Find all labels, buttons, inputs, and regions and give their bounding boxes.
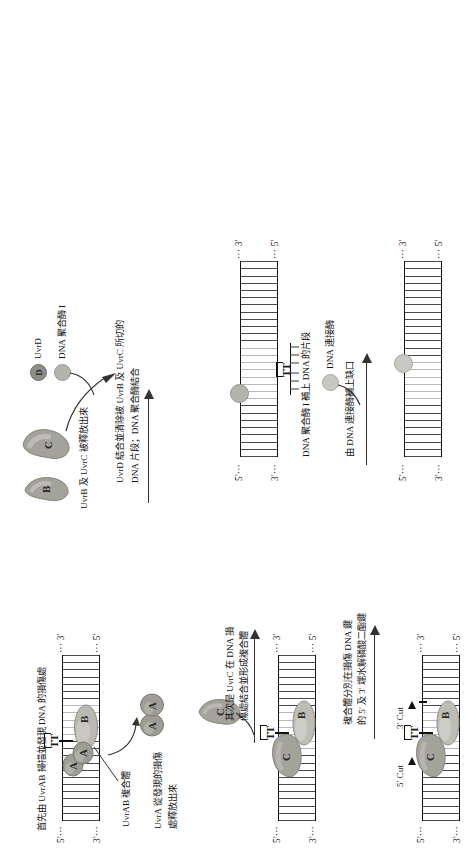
rung bbox=[423, 662, 459, 663]
rung bbox=[405, 384, 441, 385]
rung bbox=[63, 662, 99, 663]
rung bbox=[241, 434, 277, 435]
pol-hook-curve bbox=[68, 367, 108, 397]
label-5prime-right: ··· 5' bbox=[308, 633, 318, 653]
rung bbox=[241, 442, 277, 443]
rung bbox=[405, 427, 441, 428]
rung bbox=[241, 377, 277, 378]
transition-3-4: B C UvrB 及 UvrC 被釋放出來 D UvrD DNA 聚合酶 I bbox=[22, 269, 222, 509]
rung bbox=[241, 312, 277, 313]
rung bbox=[405, 261, 441, 262]
panel-1-release-line2: 處釋放出來 bbox=[167, 784, 180, 829]
label-3prime-left: 3'··· bbox=[92, 826, 102, 843]
rung bbox=[279, 655, 315, 656]
rung bbox=[63, 791, 99, 792]
protein-label-c-released: C bbox=[42, 441, 54, 449]
rung bbox=[63, 798, 99, 799]
rung bbox=[405, 434, 441, 435]
rung bbox=[405, 456, 441, 457]
label-5prime-left: 5'··· bbox=[56, 826, 66, 843]
dna-strand-bottom bbox=[441, 261, 442, 457]
rung bbox=[279, 662, 315, 663]
rung bbox=[241, 420, 277, 421]
legend-label-uvrd: UvrD bbox=[32, 338, 45, 359]
rung bbox=[241, 355, 277, 356]
rung bbox=[405, 377, 441, 378]
protein-label-a-rel-a: A bbox=[146, 722, 158, 730]
rung bbox=[405, 391, 441, 392]
panel-5-repaired-dna: 5'··· 3'··· ··· 3' ··· 5' bbox=[378, 241, 465, 481]
process-arrow-line-4 bbox=[366, 361, 367, 465]
label-5prime-right: ··· 5' bbox=[434, 239, 444, 259]
rung bbox=[241, 261, 277, 262]
label-3prime-right: ··· 3' bbox=[398, 239, 408, 259]
rung bbox=[241, 427, 277, 428]
rung bbox=[279, 684, 315, 685]
rung bbox=[279, 669, 315, 670]
panel-3-incision: 5'··· 3'··· ··· 3' ··· 5' 5' Cut 3' Cut … bbox=[378, 647, 465, 843]
label-5prime-left: 5'··· bbox=[398, 464, 408, 481]
label-5prime-cut: 5' Cut bbox=[394, 765, 407, 787]
rung bbox=[405, 348, 441, 349]
rung bbox=[241, 405, 277, 406]
panel-1-complex-label: UvrAB 複合體 bbox=[120, 771, 133, 827]
panel-1-release-line1: UvrA 從發現的損傷 bbox=[152, 752, 165, 829]
rung bbox=[241, 290, 277, 291]
protein-label-c-2: C bbox=[280, 753, 292, 761]
label-3prime-right: ··· 3' bbox=[272, 633, 282, 653]
rung bbox=[423, 791, 459, 792]
process-arrow-head-2 bbox=[370, 625, 380, 635]
rung bbox=[241, 268, 277, 269]
rung bbox=[63, 813, 99, 814]
rung bbox=[241, 341, 277, 342]
process-arrow-line-2 bbox=[374, 633, 375, 739]
rung bbox=[63, 669, 99, 670]
protein-label-a-1a: A bbox=[67, 762, 79, 770]
rung bbox=[241, 333, 277, 334]
transition-4-5: DNA 聚合酶 I 補上 DNA 的片段 DNA 連接酶 由 DNA 連接酶補上… bbox=[300, 239, 390, 469]
rung bbox=[241, 456, 277, 457]
rung bbox=[279, 820, 315, 821]
protein-label-a-1b: A bbox=[77, 749, 89, 757]
label-5prime-right: ··· 5' bbox=[270, 239, 280, 259]
rung bbox=[405, 420, 441, 421]
label-3prime-right: ··· 3' bbox=[416, 633, 426, 653]
rung bbox=[241, 449, 277, 450]
rung bbox=[423, 820, 459, 821]
rung bbox=[63, 684, 99, 685]
protein-label-b-released: B bbox=[40, 486, 52, 493]
rung bbox=[405, 312, 441, 313]
protein-label-d: D bbox=[31, 365, 46, 380]
rung bbox=[405, 333, 441, 334]
rung bbox=[405, 341, 441, 342]
rung bbox=[241, 319, 277, 320]
rung bbox=[241, 297, 277, 298]
rung bbox=[241, 304, 277, 305]
rung bbox=[63, 655, 99, 656]
rung bbox=[423, 813, 459, 814]
rung bbox=[63, 820, 99, 821]
rung bbox=[241, 369, 277, 370]
rung bbox=[423, 691, 459, 692]
rung bbox=[279, 698, 315, 699]
label-3prime-left: 3'··· bbox=[434, 464, 444, 481]
protein-label-a-rel-b: A bbox=[146, 702, 158, 710]
dna-ligase-on-dna bbox=[394, 354, 413, 373]
legend-label-dna-ligase: DNA 連接酶 bbox=[324, 320, 337, 369]
rung bbox=[63, 698, 99, 699]
label-3prime-right: ··· 3' bbox=[234, 239, 244, 259]
rung bbox=[63, 784, 99, 785]
rung bbox=[423, 798, 459, 799]
rung bbox=[423, 655, 459, 656]
label-5prime-left: 5'··· bbox=[234, 464, 244, 481]
dna-strand-bottom bbox=[277, 261, 278, 457]
label-5prime-right: ··· 5' bbox=[452, 633, 462, 653]
legend-label-dna-polymerase: DNA 聚合酶 I bbox=[56, 305, 69, 359]
rung bbox=[405, 319, 441, 320]
release-arrow-uvra bbox=[106, 711, 142, 757]
transition-2-3-line1: 複合體分別在損傷 DNA 鍵 bbox=[342, 620, 355, 725]
transition-3-4-line1: UvrD 結合並清除被 UvrB 及 UvrC 所切的 bbox=[114, 320, 127, 483]
process-arrow-head-3 bbox=[144, 389, 154, 399]
rung bbox=[405, 442, 441, 443]
